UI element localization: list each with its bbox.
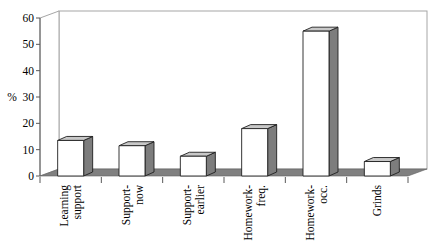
x-category-label: Support- (181, 185, 194, 225)
x-category-label: Support- (120, 185, 133, 225)
x-category-label: Homework- (304, 185, 316, 241)
y-tick-label: 0 (28, 170, 34, 182)
x-category-label: freq. (255, 185, 268, 207)
x-category-label: Grinds (371, 184, 383, 216)
bar-chart-svg: 0102030405060%LearningsupportSupport-now… (0, 0, 439, 242)
bar-front-face (119, 146, 145, 176)
y-tick-label: 40 (23, 65, 35, 77)
x-category-label: support (71, 184, 84, 219)
x-category-label: Homework- (242, 185, 254, 241)
bar-front-face (242, 129, 268, 176)
bar-side-face (84, 136, 93, 176)
bar-front-face (364, 162, 390, 176)
y-tick-label: 60 (23, 12, 35, 24)
bar-chart: 0102030405060%LearningsupportSupport-now… (0, 0, 439, 242)
left-wall (40, 11, 59, 176)
y-tick-label: 20 (23, 117, 35, 129)
bar-front-face (58, 140, 84, 176)
x-category-label: Learning (58, 185, 71, 227)
y-tick-label: 10 (23, 144, 35, 156)
y-tick-label: 30 (23, 91, 35, 103)
y-axis-title: % (7, 91, 17, 103)
bar-side-face (268, 125, 277, 176)
bar-front-face (180, 156, 206, 176)
x-category-label: earlier (194, 185, 206, 215)
x-category-label: occ. (317, 185, 329, 204)
x-category-label: now (133, 184, 145, 205)
bar-side-face (329, 27, 338, 176)
bar-front-face (303, 31, 329, 176)
bar-side-face (145, 142, 154, 176)
y-tick-label: 50 (23, 38, 35, 50)
